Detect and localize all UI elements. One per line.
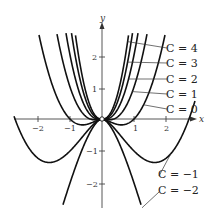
x-tick-label: −2 (32, 124, 44, 133)
curve-label-c3: C = 3 (166, 57, 198, 70)
x-tick-label: 2 (164, 124, 169, 133)
x-tick-label: 1 (133, 124, 138, 133)
curve-label-c-minus-2: C = −2 (158, 184, 199, 197)
y-tick-label: −1 (86, 147, 98, 156)
curve-label-c0: C = 0 (166, 103, 198, 116)
x-tick-label: −1 (64, 124, 76, 133)
x-axis-arrow-icon (190, 117, 197, 122)
leader-line (128, 42, 167, 48)
y-tick-label: 1 (92, 85, 97, 94)
x-axis-label: x (199, 114, 204, 124)
diagram-figure: −2 −1 1 2 2 1 −1 −2 x y C = 4 C = 3 C = … (0, 0, 218, 216)
leader-line (128, 62, 167, 63)
leader-line (142, 192, 159, 208)
origin-hole-marker (100, 117, 104, 121)
curve-label-c4: C = 4 (166, 42, 198, 55)
y-axis-arrow-icon (100, 22, 105, 29)
y-axis-label: y (99, 13, 106, 23)
leader-line (144, 105, 167, 109)
curve-label-c1: C = 1 (166, 88, 198, 101)
curve-label-c-minus-1: C = −1 (158, 168, 199, 181)
plot-canvas: −2 −1 1 2 2 1 −1 −2 x y C = 4 C = 3 C = … (0, 0, 218, 216)
curve-label-c2: C = 2 (166, 73, 198, 86)
y-tick-label: −2 (86, 180, 98, 189)
y-tick-label: 2 (92, 53, 97, 62)
